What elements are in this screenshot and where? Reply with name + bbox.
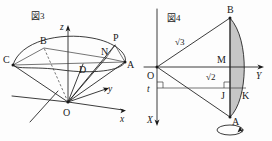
figure-4-parameter-t: t [147,84,150,94]
figure-4-label-k: K [242,90,250,101]
figure-3-label-c: C [3,54,10,65]
figure-4-length-om: √2 [206,72,215,82]
figure-3-label-d: D [79,64,86,75]
figure-4-label-j: J [221,90,225,101]
figure-3-z-axis-label: z [59,22,64,32]
figure-4-triangle-oba [157,18,230,117]
figure-4-label-a: A [232,116,240,127]
figure-3-caption: 図3 [31,11,45,21]
figure-4: 図4 X Y [136,0,272,141]
figure-3-label-p: P [113,32,119,43]
figure-3-label-a: A [127,59,135,70]
figure-4-right-angle-mark-o [157,82,163,88]
figure-4-vertex-dots [156,17,232,119]
figure-4-label-b: B [227,4,234,15]
figure-4-right-angle-mark-j [224,82,230,88]
figure-3-ground-line [30,91,58,122]
figure-3-label-n: N [101,46,108,57]
figure-4-length-ob: √3 [175,37,185,47]
figure-3-label-o: O [63,107,70,118]
figure-sheet: 図3 z y x [0,0,272,141]
figure-3-label-b: B [40,35,47,46]
figure-3: 図3 z y x [0,0,136,141]
figure-3-y-axis-label: y [107,84,113,94]
figure-4-y-axis [144,65,264,70]
figure-4-label-o: O [147,70,154,81]
figure-3-x-axis-label: x [119,114,125,124]
figure-4-y-axis-label: Y [256,71,263,81]
figure-4-shaded-region [230,18,244,117]
figure-4-caption: 図4 [167,13,181,23]
figure-3-vertex-dots [12,61,127,104]
figure-4-x-axis-label: X [146,115,154,125]
figure-4-label-m: M [217,54,226,65]
